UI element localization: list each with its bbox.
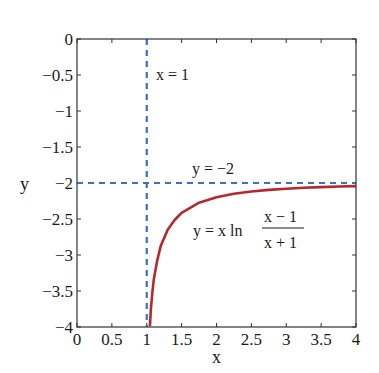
- x-tick-label: 3.5: [311, 330, 332, 349]
- annotation-x-equals-1: x = 1: [156, 66, 189, 83]
- tick-marks: [77, 39, 356, 327]
- y-tick-label: −1: [55, 102, 73, 121]
- y-tick-labels: 0−0.5−1−1.5−2−2.5−3−3.5−4: [42, 30, 73, 337]
- x-tick-label: 1.5: [171, 330, 192, 349]
- formula-denominator: x + 1: [264, 234, 297, 251]
- function-curve: [150, 186, 356, 326]
- annotation-formula: y = x ln x − 1 x + 1: [193, 208, 304, 251]
- x-tick-label: 0.5: [101, 330, 122, 349]
- formula-numerator: x − 1: [264, 208, 297, 225]
- y-tick-label: −2: [55, 174, 73, 193]
- y-tick-label: −3.5: [42, 282, 73, 301]
- chart-figure: 0−0.5−1−1.5−2−2.5−3−3.5−4 00.511.522.533…: [0, 0, 379, 373]
- formula-main: y = x ln: [193, 222, 242, 240]
- y-tick-label: −3: [55, 246, 73, 265]
- x-tick-label: 4: [352, 330, 361, 349]
- asymptote-lines: [77, 39, 356, 327]
- annotation-y-equals-minus-2: y = −2: [192, 160, 234, 178]
- y-tick-label: −1.5: [42, 138, 73, 157]
- x-tick-label: 1: [143, 330, 152, 349]
- y-tick-label: −4: [55, 318, 74, 337]
- plot-area-frame: [77, 39, 356, 327]
- y-tick-label: 0: [65, 30, 74, 49]
- x-tick-label: 2.5: [241, 330, 262, 349]
- y-tick-label: −2.5: [42, 210, 73, 229]
- x-axis-label: x: [212, 347, 221, 367]
- x-tick-label: 0: [73, 330, 82, 349]
- x-tick-label: 3: [282, 330, 291, 349]
- y-axis-label: y: [20, 174, 29, 194]
- y-tick-label: −0.5: [42, 66, 73, 85]
